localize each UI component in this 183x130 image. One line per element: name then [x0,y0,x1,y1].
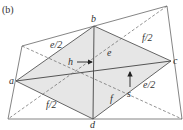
vertex-d: d [90,119,96,130]
edge-label-bc: f/2 [142,32,153,43]
edge-label-ad: f/2 [46,99,57,110]
diagram: (b) a b c d e/2 f/2 f/2 e/2 h e s f [0,0,183,130]
label-h: h [68,56,73,67]
label-e: e [107,47,112,58]
edge-label-cd: e/2 [143,79,155,90]
edge-label-ab: e/2 [50,39,62,50]
vertex-a: a [9,75,14,86]
vertex-c: c [173,55,178,66]
panel-label: (b) [2,4,14,16]
label-s: s [127,88,131,99]
geometry-figure: (b) a b c d e/2 f/2 f/2 e/2 h e s f [0,0,183,130]
vertex-b: b [91,13,96,24]
